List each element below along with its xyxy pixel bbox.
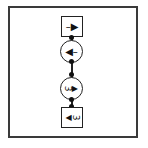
connector-dot [69, 97, 74, 102]
connector-dot [69, 59, 74, 64]
node-square-4: ◀ 3 [61, 107, 83, 128]
node-square-1: –▶ [61, 16, 83, 37]
node-3-digit: 3 [63, 86, 72, 92]
node-4-digit: 3 [71, 115, 80, 121]
node-2-label: ◀– [65, 47, 78, 57]
node-1-label: –▶ [66, 22, 79, 32]
